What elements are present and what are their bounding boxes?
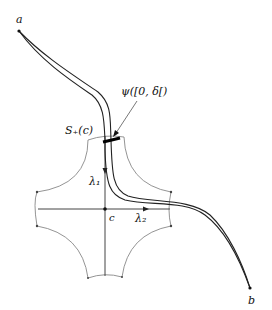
critical-point-c: [103, 207, 107, 211]
psi-segment: [103, 138, 120, 142]
label-b: b: [248, 295, 255, 306]
lambda2-arrow-icon: [143, 207, 149, 212]
neighborhood-region: [35, 136, 171, 278]
label-s-plus-c: S₊(c): [65, 125, 93, 136]
corner-dots: [36, 191, 172, 279]
label-a: a: [16, 14, 23, 25]
point-b: [248, 286, 251, 289]
label-psi: ψ([0, δ[): [121, 86, 167, 97]
label-lambda1: λ₁: [89, 176, 100, 187]
point-a: [17, 29, 20, 32]
axes: [38, 136, 170, 276]
diagram-canvas: [0, 0, 272, 310]
label-c: c: [109, 213, 115, 223]
paths-a-to-b: [19, 31, 250, 288]
psi-pointer-line: [116, 101, 137, 133]
label-lambda2: λ₂: [135, 213, 146, 224]
